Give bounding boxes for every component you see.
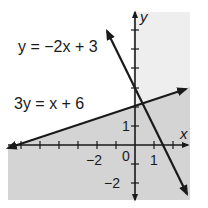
x-axis-label: x (179, 125, 188, 142)
x-tick-label-1: 1 (150, 152, 158, 168)
equation-label-1: y = −2x + 3 (18, 38, 98, 55)
y-tick-label-1: 1 (122, 118, 130, 134)
inequality-graph: y = −2x + 3 3y = x + 6 y x −2 0 1 1 −2 (0, 0, 208, 208)
x-tick-label-0: 0 (122, 148, 130, 164)
y-tick-label-neg2: −2 (104, 175, 120, 191)
equation-label-2: 3y = x + 6 (14, 95, 84, 112)
x-tick-label-neg2: −2 (86, 152, 102, 168)
